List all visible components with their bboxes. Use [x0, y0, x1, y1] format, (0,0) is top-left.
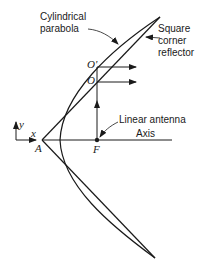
- label-cylindrical: Cylindrical: [40, 11, 86, 22]
- label-parabola: parabola: [40, 23, 79, 34]
- leader-parabola: [88, 29, 118, 44]
- label-linear-antenna: Linear antenna: [119, 114, 186, 125]
- label-O: O: [87, 74, 95, 86]
- label-A: A: [34, 142, 42, 154]
- focus-point: [95, 138, 99, 142]
- leader-antenna: [100, 122, 118, 137]
- reflector-diagram: Cylindrical parabola Square corner refle…: [0, 0, 205, 261]
- label-corner: corner: [158, 35, 187, 46]
- corner-reflector-lower: [42, 140, 155, 258]
- label-O-prime: O': [87, 58, 98, 70]
- label-reflector: reflector: [158, 47, 195, 58]
- feed-ray-arrowhead: [94, 100, 100, 108]
- label-F: F: [92, 143, 100, 155]
- label-y: y: [18, 118, 24, 130]
- label-square: Square: [158, 23, 191, 34]
- label-x: x: [30, 127, 36, 139]
- label-axis: Axis: [136, 128, 155, 139]
